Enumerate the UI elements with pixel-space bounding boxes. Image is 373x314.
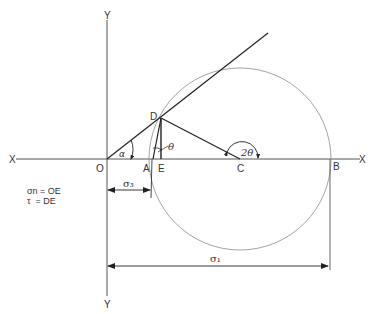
theta-label: θ: [168, 141, 174, 152]
legend-normal-stress: σn = OE: [27, 186, 61, 196]
line-DA: [153, 118, 161, 159]
sigma3-label: σ₃: [123, 178, 134, 189]
alpha-arc: [131, 140, 133, 159]
x-axis-label-right: X: [359, 154, 366, 165]
two-theta-label: 2θ: [240, 147, 253, 158]
point-A-label: A: [143, 163, 150, 174]
theta-leader: [158, 146, 168, 152]
point-B-label: B: [333, 161, 340, 172]
line-A-extension: [151, 159, 152, 198]
y-axis-label-top: Y: [104, 10, 111, 21]
mohr-circle-diagram: X X Y Y O A E C B D α θ 2θ σ₃ σ₁ σn = OE…: [0, 0, 373, 314]
legend-shear-stress: τ = DE: [27, 196, 56, 206]
point-C-label: C: [237, 163, 244, 174]
sigma1-label: σ₁: [210, 253, 221, 264]
y-axis-label-bottom: Y: [104, 299, 111, 310]
point-E-label: E: [158, 163, 165, 174]
x-axis-label-left: X: [9, 154, 16, 165]
point-O-label: O: [96, 163, 104, 174]
point-D-label: D: [150, 111, 157, 122]
line-DC: [161, 118, 240, 159]
alpha-label: α: [119, 149, 125, 159]
